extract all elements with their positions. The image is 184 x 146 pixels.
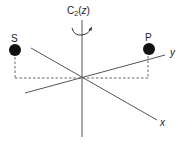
atom-s	[9, 44, 21, 56]
atom-p-label: P	[145, 32, 152, 43]
atom-s-label: S	[11, 33, 18, 44]
y-axis-label: y	[169, 47, 176, 58]
y-axis	[25, 55, 165, 93]
rotation-axis-label: C2(z)	[67, 5, 90, 17]
atom-p	[143, 43, 155, 55]
x-axis	[31, 48, 157, 120]
x-axis-label: x	[159, 117, 166, 128]
c2-symmetry-diagram: C2(z) S P y x	[0, 0, 184, 146]
